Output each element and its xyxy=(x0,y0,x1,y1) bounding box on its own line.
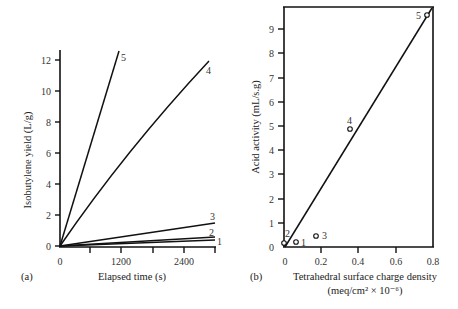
panel-a: 0 2 4 6 8 10 12 0 1200 2400 xyxy=(21,50,222,283)
figure: 0 2 4 6 8 10 12 0 1200 2400 xyxy=(0,0,458,309)
b-x-tick-labels: 0 0.2 0.4 0.6 0.8 xyxy=(283,256,440,267)
b-x-tick-0.4: 0.4 xyxy=(352,256,365,267)
a-label-1: 1 xyxy=(217,236,222,247)
b-y-tick-9: 9 xyxy=(269,24,274,35)
b-x-tick-0.2: 0.2 xyxy=(315,256,328,267)
b-point-labels: 1 2 3 4 5 xyxy=(285,10,421,248)
b-y-tick-labels: 0 1 2 3 4 5 6 7 8 9 xyxy=(269,24,274,253)
b-label-4: 4 xyxy=(347,115,352,126)
b-panel-label: (b) xyxy=(250,271,263,283)
a-y-tick-0: 0 xyxy=(46,241,51,252)
a-label-5: 5 xyxy=(121,52,126,63)
b-x-axis-units: (meq/cm² × 10⁻⁶) xyxy=(328,285,403,297)
a-y-axis-title: Isobutylene yield (L/g) xyxy=(22,111,34,208)
b-fit-line xyxy=(285,8,432,247)
b-x-tick-0.6: 0.6 xyxy=(390,256,403,267)
b-point-3 xyxy=(314,234,319,239)
a-y-tick-4: 4 xyxy=(46,179,51,190)
b-point-5 xyxy=(425,13,430,18)
a-x-tick-labels: 0 1200 2400 xyxy=(58,256,195,267)
a-series-labels: 1 2 3 4 5 xyxy=(121,52,222,247)
a-label-4: 4 xyxy=(206,65,211,76)
panel-b: 0 1 2 3 4 5 6 7 8 9 0 0.2 0.4 0.6 0.8 xyxy=(250,7,439,297)
b-x-ticks xyxy=(321,247,396,253)
b-y-tick-8: 8 xyxy=(269,48,274,59)
a-x-axis-title: Elapsed time (s) xyxy=(98,271,167,283)
a-y-tick-10: 10 xyxy=(41,86,51,97)
a-y-tick-6: 6 xyxy=(46,148,51,159)
a-y-tick-8: 8 xyxy=(46,117,51,128)
b-y-tick-6: 6 xyxy=(269,97,274,108)
b-point-1 xyxy=(294,240,299,245)
a-y-tick-labels: 0 2 4 6 8 10 12 xyxy=(41,55,51,252)
b-x-tick-0: 0 xyxy=(283,256,288,267)
b-y-axis-title: Acid activity (mL/s.g) xyxy=(250,80,262,174)
b-y-tick-3: 3 xyxy=(269,169,274,180)
a-label-2: 2 xyxy=(209,227,214,238)
a-y-tick-12: 12 xyxy=(41,55,51,66)
b-y-ticks xyxy=(278,29,284,223)
b-label-5: 5 xyxy=(416,10,421,21)
a-x-tick-2400: 2400 xyxy=(174,256,194,267)
a-y-tick-2: 2 xyxy=(46,210,51,221)
b-y-tick-5: 5 xyxy=(269,121,274,132)
b-y-tick-4: 4 xyxy=(269,145,274,156)
a-panel-label: (a) xyxy=(21,271,33,283)
b-y-tick-7: 7 xyxy=(269,73,274,84)
a-series-5 xyxy=(60,51,119,246)
b-point-4 xyxy=(348,127,353,132)
a-label-3: 3 xyxy=(210,211,215,222)
a-x-tick-0: 0 xyxy=(58,256,63,267)
a-series xyxy=(60,51,215,246)
a-x-ticks xyxy=(90,247,215,253)
a-x-tick-1200: 1200 xyxy=(111,256,131,267)
b-y-tick-2: 2 xyxy=(269,194,274,205)
b-point-2 xyxy=(282,241,287,246)
b-y-tick-0: 0 xyxy=(269,242,274,253)
b-label-1: 1 xyxy=(301,237,306,248)
b-x-axis-title: Tetrahedral surface charge density xyxy=(293,271,438,282)
b-label-2: 2 xyxy=(285,228,290,239)
b-label-3: 3 xyxy=(322,230,327,241)
a-series-4 xyxy=(60,61,209,246)
b-x-tick-0.8: 0.8 xyxy=(427,256,440,267)
b-y-tick-1: 1 xyxy=(269,218,274,229)
